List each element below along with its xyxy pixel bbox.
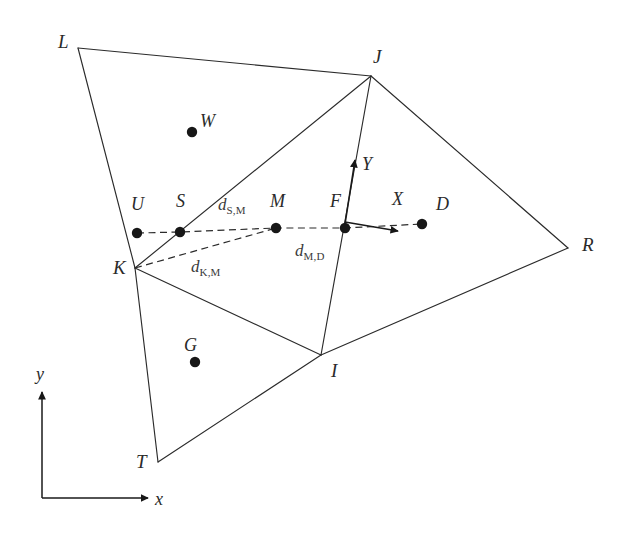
vertex-label-j: J [373, 47, 381, 66]
mesh-edge-t-i [158, 355, 321, 462]
point-marker-u [132, 228, 142, 238]
distance-label-d_sm: dS,M [218, 196, 246, 216]
point-marker-w [187, 127, 197, 137]
distance-label-d_km: dK,M [191, 258, 221, 278]
point-label-m: M [270, 192, 285, 210]
node-marker-group [132, 127, 427, 367]
point-marker-d [417, 219, 427, 229]
distance-label-d_md: dM,D [295, 242, 325, 262]
mesh-edge-k-i [135, 268, 321, 355]
point-label-f: F [330, 192, 341, 210]
point-label-w: W [200, 112, 215, 130]
global-y-axis-label: y [36, 365, 44, 383]
point-marker-m [271, 223, 281, 233]
mesh-edge-r-i [321, 248, 568, 355]
mesh-edge-k-j [135, 76, 371, 268]
global-x-axis-label: x [155, 490, 163, 508]
mesh-edge-l-k [78, 48, 135, 268]
diagram-canvas [0, 0, 621, 533]
local-y-axis-label: Y [362, 155, 372, 173]
point-label-u: U [131, 195, 144, 213]
point-label-d: D [436, 195, 449, 213]
point-marker-g [190, 357, 200, 367]
point-marker-f [340, 223, 350, 233]
vertex-label-t: T [136, 452, 147, 471]
local-y-axis-arrow [345, 160, 355, 224]
local-x-axis-arrow [345, 222, 398, 231]
vertex-label-i: I [331, 361, 337, 380]
mesh-edge-k-t [135, 268, 158, 462]
point-marker-s [175, 227, 185, 237]
point-label-g: G [184, 336, 197, 354]
geometry-diagram: LJRKITWUSMFDGXYxydS,MdK,MdM,D [0, 0, 621, 533]
vertex-label-l: L [58, 32, 69, 51]
local-x-axis-label: X [392, 190, 403, 208]
mesh-edge-l-j [78, 48, 371, 76]
vertex-label-k: K [113, 258, 126, 277]
point-label-s: S [176, 192, 185, 210]
global-axes-group [42, 392, 148, 498]
vertex-label-r: R [582, 235, 594, 254]
mesh-edge-j-r [371, 76, 568, 248]
